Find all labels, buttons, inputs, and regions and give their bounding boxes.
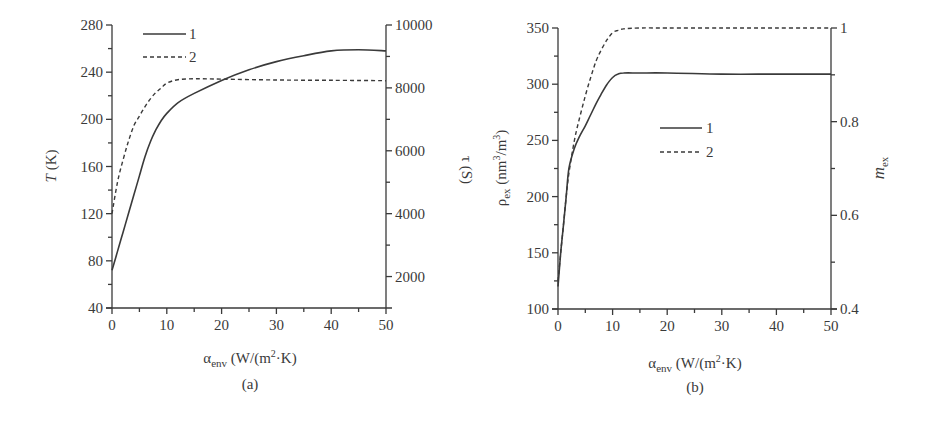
x-tick-label: 30 [714,318,729,334]
x-tick-label: 40 [769,318,784,334]
series-line-2 [558,28,831,281]
chart-panel-a: 4080120160200240280200040006000800010000… [43,17,475,393]
legend-b-label-2: 2 [706,144,714,160]
y2-tick-label: 4000 [395,206,425,222]
y-tick-label: 200 [81,111,104,127]
y-tick-label: 80 [88,253,103,269]
x-tick-label: 0 [554,318,562,334]
x-tick-label: 50 [379,317,394,333]
y-tick-label: 100 [527,301,550,317]
x-tick-label: 30 [269,317,284,333]
series-line-1 [112,50,386,270]
y-tick-label: 300 [527,76,550,92]
y2-axis-label-b: mex [869,156,890,179]
legend-a-label-2: 2 [189,49,197,65]
series-line-1 [558,73,831,287]
y-tick-label: 250 [527,132,550,148]
y-axis-label-a: T (K) [43,150,60,183]
y-tick-label: 280 [81,17,104,33]
series-line-2 [112,79,386,214]
y-tick-label: 150 [527,245,550,261]
y-tick-label: 350 [527,20,550,36]
series-group-b [558,28,831,287]
x-tick-label: 40 [324,317,339,333]
y-axis-label-b: ρex (nm3/m3) [491,130,512,207]
legend-b-label-1: 1 [706,120,714,136]
y2-tick-label: 2000 [395,269,425,285]
x-tick-label: 0 [108,317,116,333]
caption-b: (b) [686,379,704,396]
chart-panel-b: 1001502002503003500.40.60.8101020304050 … [491,20,890,396]
legend-b: 1 2 [660,120,714,160]
y2-tick-label: 1 [840,20,848,36]
y-tick-label: 240 [81,64,104,80]
y-tick-label: 200 [527,189,550,205]
y2-tick-label: 0.8 [840,114,859,130]
caption-a: (a) [242,376,259,393]
y2-tick-label: 8000 [395,80,425,96]
y2-tick-label: 0.4 [840,301,859,317]
x-tick-label: 10 [605,318,620,334]
x-tick-label: 10 [159,317,174,333]
x-tick-label: 50 [824,318,839,334]
y2-tick-label: 0.6 [840,207,859,223]
figure: 4080120160200240280200040006000800010000… [0,0,936,429]
legend-a-label-1: 1 [189,26,197,42]
x-axis-label-a: αenv (W/(m2·K) [203,348,296,369]
y-tick-label: 160 [81,159,104,175]
y2-axis-label-a: τ (S) [458,156,475,184]
x-tick-label: 20 [660,318,675,334]
axes-frame-b: 1001502002503003500.40.60.8101020304050 [527,20,860,334]
axes-frame-a: 4080120160200240280200040006000800010000… [81,17,433,333]
y2-tick-label: 6000 [395,143,425,159]
x-axis-label-b: αenv (W/(m2·K) [648,353,741,374]
y-tick-label: 40 [88,300,103,316]
series-group-a [112,50,386,270]
y-tick-label: 120 [81,206,104,222]
y2-tick-label: 10000 [395,17,433,33]
legend-a: 1 2 [143,26,197,65]
x-tick-label: 20 [214,317,229,333]
